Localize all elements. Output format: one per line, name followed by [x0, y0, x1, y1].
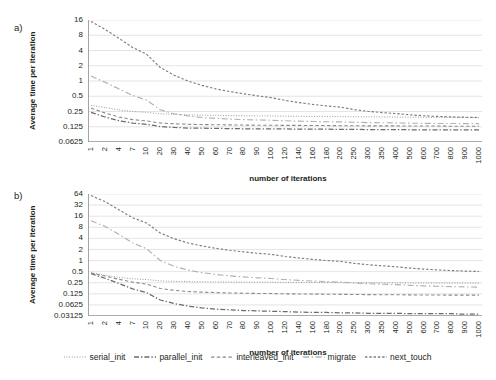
- x-tick-label: 160: [309, 321, 317, 334]
- series-line-interleaved_init: [91, 273, 479, 295]
- x-tick-label: 140: [295, 321, 303, 334]
- y-tick-label: 4: [0, 234, 83, 242]
- x-tick-label: 7: [129, 321, 137, 325]
- x-tick-label: 40: [184, 321, 192, 329]
- legend-swatch-parallel_init: [134, 353, 156, 361]
- x-tick-label: 90: [253, 321, 261, 329]
- x-tick-label: 350: [378, 147, 386, 160]
- x-tick-label: 600: [420, 147, 428, 160]
- legend-item-parallel_init[interactable]: parallel_init: [134, 352, 202, 362]
- x-tick-label: 200: [336, 147, 344, 160]
- y-tick-label: 1: [0, 257, 83, 265]
- legend-swatch-next_touch: [365, 353, 387, 361]
- x-tick-label: 800: [447, 147, 455, 160]
- figure-container: a) Average time per iteration 0.06250.12…: [0, 0, 496, 380]
- x-tick-label: 7: [129, 147, 137, 151]
- x-tick-label: 50: [198, 147, 206, 155]
- panel-b-plot-area: [88, 194, 482, 316]
- x-tick-label: 40: [184, 147, 192, 155]
- x-tick-label: 400: [392, 147, 400, 160]
- x-tick-label: 2: [101, 321, 109, 325]
- x-tick-label: 80: [239, 321, 247, 329]
- x-tick-label: 60: [212, 321, 220, 329]
- x-tick-label: 70: [226, 147, 234, 155]
- legend-label: next_touch: [390, 352, 432, 362]
- x-tick-label: 700: [433, 147, 441, 160]
- y-tick-label: 2: [0, 62, 83, 70]
- legend-swatch-serial_init: [64, 353, 86, 361]
- x-tick-label: 80: [239, 147, 247, 155]
- x-tick-label: 800: [447, 321, 455, 334]
- x-tick-label: 500: [406, 147, 414, 160]
- x-tick-label: 2: [101, 147, 109, 151]
- x-tick-label: 180: [323, 147, 331, 160]
- x-tick-label: 300: [364, 321, 372, 334]
- series-line-serial_init: [91, 273, 479, 283]
- chart-legend: serial_initparallel_initinterleaved_init…: [0, 352, 496, 362]
- series-line-migrate: [91, 76, 479, 124]
- series-line-next_touch: [91, 21, 479, 117]
- legend-item-migrate[interactable]: migrate: [303, 352, 356, 362]
- legend-item-next_touch[interactable]: next_touch: [365, 352, 432, 362]
- x-tick-label: 1: [87, 321, 95, 325]
- series-line-next_touch: [91, 196, 479, 272]
- legend-item-serial_init[interactable]: serial_init: [64, 352, 125, 362]
- x-tick-label: 300: [364, 147, 372, 160]
- x-tick-label: 4: [115, 147, 123, 151]
- x-tick-label: 10: [142, 147, 150, 155]
- y-tick-label: 0.125: [0, 290, 83, 298]
- x-tick-label: 20: [156, 321, 164, 329]
- y-tick-label: 16: [0, 212, 83, 220]
- x-tick-label: 120: [281, 321, 289, 334]
- series-line-migrate: [91, 221, 479, 287]
- y-tick-label: 2: [0, 246, 83, 254]
- x-tick-label: 120: [281, 147, 289, 160]
- y-tick-label: 8: [0, 223, 83, 231]
- x-tick-label: 60: [212, 147, 220, 155]
- x-tick-label: 1000: [475, 321, 483, 338]
- y-tick-label: 0.125: [0, 123, 83, 131]
- panel-a-plot-area: [88, 20, 482, 142]
- y-tick-label: 0.25: [0, 108, 83, 116]
- legend-swatch-migrate: [303, 353, 325, 361]
- x-tick-label: 100: [267, 321, 275, 334]
- x-tick-label: 700: [433, 321, 441, 334]
- legend-swatch-interleaved_init: [211, 353, 233, 361]
- y-tick-label: 16: [0, 16, 83, 24]
- y-tick-label: 1: [0, 77, 83, 85]
- y-tick-label: 0.0625: [0, 301, 83, 309]
- x-tick-label: 4: [115, 321, 123, 325]
- x-tick-label: 1000: [475, 147, 483, 164]
- x-tick-label: 500: [406, 321, 414, 334]
- x-tick-label: 400: [392, 321, 400, 334]
- x-tick-label: 160: [309, 147, 317, 160]
- x-tick-label: 10: [142, 321, 150, 329]
- legend-item-interleaved_init[interactable]: interleaved_init: [211, 352, 293, 362]
- x-tick-label: 180: [323, 321, 331, 334]
- panel-b: b) Average time per iteration 0.031250.0…: [0, 186, 496, 346]
- x-tick-label: 350: [378, 321, 386, 334]
- panel-a: a) Average time per iteration 0.06250.12…: [0, 0, 496, 190]
- legend-label: migrate: [328, 352, 356, 362]
- x-tick-label: 20: [156, 147, 164, 155]
- legend-label: serial_init: [89, 352, 125, 362]
- y-tick-label: 0.25: [0, 279, 83, 287]
- y-tick-label: 0.0625: [0, 138, 83, 146]
- legend-label: interleaved_init: [236, 352, 293, 362]
- y-tick-label: 32: [0, 201, 83, 209]
- x-tick-label: 900: [461, 321, 469, 334]
- x-tick-label: 250: [350, 147, 358, 160]
- x-tick-label: 90: [253, 147, 261, 155]
- x-tick-label: 250: [350, 321, 358, 334]
- y-tick-label: 4: [0, 47, 83, 55]
- x-tick-label: 100: [267, 147, 275, 160]
- x-tick-label: 900: [461, 147, 469, 160]
- x-tick-label: 50: [198, 321, 206, 329]
- panel-a-x-axis-title: number of iterations: [148, 174, 428, 183]
- y-tick-label: 64: [0, 190, 83, 198]
- legend-label: parallel_init: [159, 352, 202, 362]
- y-tick-label: 0.5: [0, 268, 83, 276]
- x-tick-label: 200: [336, 321, 344, 334]
- y-tick-label: 8: [0, 31, 83, 39]
- y-tick-label: 0.03125: [0, 312, 83, 320]
